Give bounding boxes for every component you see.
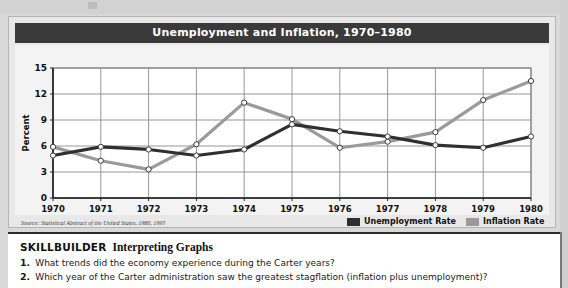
- skillbuilder-label: SKILLBUILDER: [20, 241, 107, 253]
- question-text-2: Which year of the Carter administration …: [35, 271, 487, 284]
- legend-label-unemployment: Unemployment Rate: [364, 217, 456, 226]
- chart-title-bar: Unemployment and Inflation, 1970–1980: [15, 23, 549, 43]
- page-top-margin: [0, 0, 568, 14]
- page-edge-rule: [560, 232, 562, 288]
- legend-swatch-inflation: [466, 218, 479, 226]
- line-chart-svg: 03691215 1970197119721973197419751976197…: [15, 45, 549, 215]
- svg-text:15: 15: [34, 63, 47, 73]
- skillbuilder-section: SKILLBUILDERInterpreting Graphs 1. What …: [8, 232, 560, 288]
- chart-legend: Unemployment Rate Inflation Rate: [347, 217, 544, 226]
- scan-artifact: [88, 2, 97, 9]
- skillbuilder-question-1: 1. What trends did the economy experienc…: [20, 256, 560, 270]
- y-axis-title: Percent: [21, 114, 31, 151]
- skillbuilder-question-2: 2. Which year of the Carter administrati…: [20, 270, 560, 284]
- chart-source-note: Source: Statistical Abstract of the Unit…: [21, 220, 165, 226]
- svg-text:1975: 1975: [280, 204, 304, 214]
- figure-card: Unemployment and Inflation, 1970–1980 03…: [8, 16, 556, 228]
- svg-text:1978: 1978: [424, 204, 448, 214]
- svg-text:9: 9: [41, 115, 47, 125]
- svg-text:3: 3: [41, 167, 47, 177]
- svg-text:1972: 1972: [137, 204, 161, 214]
- svg-text:1970: 1970: [41, 204, 65, 214]
- svg-text:1977: 1977: [376, 204, 400, 214]
- svg-text:1971: 1971: [89, 204, 113, 214]
- chart-plot-area: 03691215 1970197119721973197419751976197…: [15, 45, 549, 215]
- chart-title: Unemployment and Inflation, 1970–1980: [15, 23, 549, 43]
- svg-text:1973: 1973: [185, 204, 209, 214]
- skillbuilder-heading: SKILLBUILDERInterpreting Graphs: [20, 241, 560, 253]
- skillbuilder-subtitle: Interpreting Graphs: [113, 241, 213, 253]
- legend-swatch-unemployment: [347, 218, 360, 226]
- svg-text:12: 12: [34, 89, 47, 99]
- legend-entry-unemployment: Unemployment Rate: [347, 217, 456, 226]
- legend-label-inflation: Inflation Rate: [483, 217, 544, 226]
- page-background: Unemployment and Inflation, 1970–1980 03…: [0, 0, 568, 288]
- svg-text:Percent: Percent: [21, 114, 31, 151]
- svg-text:1974: 1974: [232, 204, 256, 214]
- svg-text:1976: 1976: [328, 204, 352, 214]
- question-text-1: What trends did the economy experience d…: [35, 257, 335, 270]
- svg-text:6: 6: [41, 141, 47, 151]
- question-number-2: 2.: [20, 270, 30, 283]
- svg-text:0: 0: [41, 193, 47, 203]
- legend-entry-inflation: Inflation Rate: [466, 217, 544, 226]
- svg-text:1979: 1979: [471, 204, 495, 214]
- svg-text:1980: 1980: [519, 204, 543, 214]
- question-number-1: 1.: [20, 256, 30, 269]
